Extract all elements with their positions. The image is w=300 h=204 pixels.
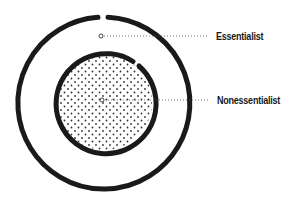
outer-marker xyxy=(99,34,103,38)
nonessentialist-label: Nonessentialist xyxy=(217,94,280,106)
inner-marker xyxy=(100,98,104,102)
essentialist-label: Essentialist xyxy=(216,30,263,42)
